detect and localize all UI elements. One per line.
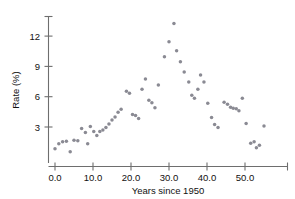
x-tick-label-50.0: 50.0 xyxy=(236,172,255,183)
data-point xyxy=(202,80,206,84)
data-point xyxy=(128,91,132,95)
data-point xyxy=(255,146,259,150)
data-point xyxy=(107,122,111,126)
x-axis: 0.010.020.030.040.050.0 xyxy=(48,163,288,184)
y-axis: 36912 xyxy=(29,16,52,163)
data-point xyxy=(222,101,226,105)
data-point xyxy=(167,40,171,44)
data-point xyxy=(258,143,262,147)
y-tick-label-3: 3 xyxy=(35,122,40,133)
data-point xyxy=(144,77,148,81)
data-point xyxy=(68,150,72,154)
data-point xyxy=(119,108,123,112)
data-point xyxy=(61,140,65,144)
data-point xyxy=(84,131,88,135)
data-point xyxy=(213,123,217,127)
x-axis-title: Years since 1950 xyxy=(132,185,205,196)
data-point xyxy=(150,101,154,105)
data-point xyxy=(57,142,61,146)
data-point xyxy=(196,87,200,91)
data-point xyxy=(262,124,266,128)
scatter-chart-figure: 36912 0.010.020.030.040.050.0 Years sinc… xyxy=(0,0,295,199)
data-point xyxy=(116,111,120,115)
data-point xyxy=(137,117,141,121)
data-point xyxy=(237,109,241,113)
x-axis-tick-labels: 0.010.020.030.040.050.0 xyxy=(48,172,254,183)
data-point xyxy=(190,93,194,97)
data-point xyxy=(131,113,135,117)
data-point xyxy=(153,106,157,110)
data-point xyxy=(163,55,167,59)
data-point xyxy=(89,125,93,129)
x-tick-label-20.0: 20.0 xyxy=(122,172,141,183)
data-point xyxy=(216,126,220,130)
data-point xyxy=(231,107,235,111)
data-point xyxy=(140,87,144,91)
data-point xyxy=(76,139,80,143)
x-tick-label-0.0: 0.0 xyxy=(48,172,61,183)
data-point xyxy=(157,83,161,87)
data-point xyxy=(252,140,256,144)
data-point xyxy=(147,98,151,102)
y-tick-label-6: 6 xyxy=(35,91,40,102)
data-point xyxy=(187,80,191,84)
data-point xyxy=(53,147,57,151)
data-point xyxy=(182,70,186,74)
data-point xyxy=(244,122,248,126)
data-point xyxy=(206,102,210,106)
y-axis-tick-labels: 36912 xyxy=(29,31,40,133)
data-point xyxy=(241,96,245,100)
data-points-group xyxy=(53,22,266,154)
y-axis-title: Rate (%) xyxy=(10,71,21,108)
data-point xyxy=(95,134,99,138)
data-point xyxy=(199,73,203,77)
data-point xyxy=(104,126,108,130)
data-point xyxy=(134,114,138,118)
x-tick-label-40.0: 40.0 xyxy=(198,172,217,183)
data-point xyxy=(101,128,105,132)
x-tick-label-10.0: 10.0 xyxy=(84,172,103,183)
data-point xyxy=(125,89,129,93)
data-point xyxy=(110,118,114,122)
x-tick-label-30.0: 30.0 xyxy=(160,172,179,183)
data-point xyxy=(172,22,176,26)
data-point xyxy=(98,130,102,134)
data-point xyxy=(179,60,183,64)
data-point xyxy=(72,138,76,142)
data-point xyxy=(65,139,69,143)
data-point xyxy=(80,127,84,131)
data-point xyxy=(86,142,90,146)
data-point xyxy=(193,96,197,100)
y-tick-label-9: 9 xyxy=(35,61,40,72)
data-point xyxy=(113,115,117,119)
y-tick-label-12: 12 xyxy=(29,31,40,42)
data-point xyxy=(249,141,253,145)
data-point xyxy=(175,49,179,53)
data-point xyxy=(226,103,230,107)
data-point xyxy=(92,130,96,134)
plot-canvas: 36912 0.010.020.030.040.050.0 Years sinc… xyxy=(0,0,295,199)
data-point xyxy=(210,116,214,120)
